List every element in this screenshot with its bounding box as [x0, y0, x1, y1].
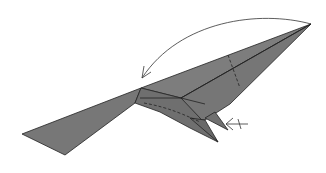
- origami-diagram: Origami fold step: [0, 0, 326, 173]
- left-wing-flap: [22, 88, 141, 155]
- origami-figure: [0, 0, 326, 173]
